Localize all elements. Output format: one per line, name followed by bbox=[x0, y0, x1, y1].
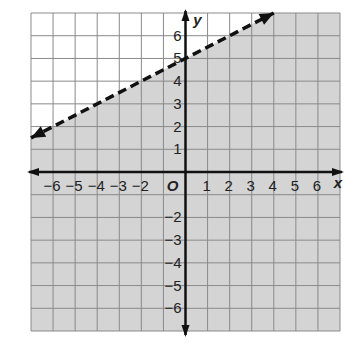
y-tick-label: 3 bbox=[173, 95, 181, 112]
y-tick-label: 2 bbox=[173, 118, 181, 135]
x-tick-label: −4 bbox=[88, 177, 105, 194]
origin-label: O bbox=[167, 177, 179, 194]
y-axis-label: y bbox=[192, 11, 202, 28]
y-tick-label: 1 bbox=[173, 140, 181, 157]
x-tick-label: −2 bbox=[132, 177, 149, 194]
y-tick-label: 4 bbox=[173, 72, 181, 89]
y-tick-label: −2 bbox=[164, 208, 181, 225]
y-tick-label: −6 bbox=[164, 299, 181, 316]
y-tick-label: −4 bbox=[164, 254, 181, 271]
coordinate-plane: −6−5−4−3−2123456654321−2−3−4−5−6Oxy bbox=[0, 0, 348, 344]
y-tick-label: −5 bbox=[164, 277, 181, 294]
y-tick-label: 5 bbox=[173, 49, 181, 66]
y-tick-label: −3 bbox=[164, 231, 181, 248]
x-tick-label: 5 bbox=[291, 177, 299, 194]
x-tick-label: −5 bbox=[66, 177, 83, 194]
x-tick-label: 1 bbox=[202, 177, 210, 194]
x-tick-label: 4 bbox=[269, 177, 277, 194]
x-tick-label: −3 bbox=[110, 177, 127, 194]
y-tick-label: 6 bbox=[173, 27, 181, 44]
x-tick-label: 6 bbox=[313, 177, 321, 194]
x-tick-label: 2 bbox=[224, 177, 232, 194]
x-axis-label: x bbox=[333, 174, 343, 191]
y-axis-arrow-up-icon bbox=[182, 9, 190, 21]
x-tick-label: 3 bbox=[247, 177, 255, 194]
x-tick-label: −6 bbox=[44, 177, 61, 194]
